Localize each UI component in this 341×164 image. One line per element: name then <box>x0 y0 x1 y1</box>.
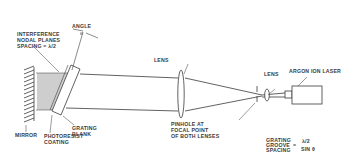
beam-top <box>80 74 178 78</box>
pinhole-label-line3: OF BOTH LENSES <box>171 134 219 140</box>
lens-label-1: LENS <box>154 58 169 64</box>
focusing-lens-icon <box>265 89 270 101</box>
beam-bottom <box>66 108 178 111</box>
lens-label-2: LENS <box>264 72 279 78</box>
grating-blank-label-line2: BLANK <box>72 132 91 138</box>
formula-denominator: SIN θ <box>301 147 315 153</box>
formula-numerator: λ/2 <box>302 139 310 145</box>
formula-label-line3: SPACING <box>266 148 291 154</box>
mirror-icon <box>24 66 34 122</box>
angle-label: ANGLE <box>72 24 91 30</box>
mirror-label: MIRROR <box>15 133 37 139</box>
collimating-lens-icon <box>178 70 184 118</box>
interference-label-line3: SPACING = λ/2 <box>17 44 56 50</box>
photoresist-label-line2: COATING <box>44 140 69 146</box>
argon-ion-laser-icon <box>285 86 322 104</box>
formula-equals: = <box>293 143 296 149</box>
angle-indicator-icon <box>72 29 98 70</box>
laser-label: ARGON ION LASER <box>289 69 341 75</box>
angle-symbol: θ <box>80 31 83 37</box>
